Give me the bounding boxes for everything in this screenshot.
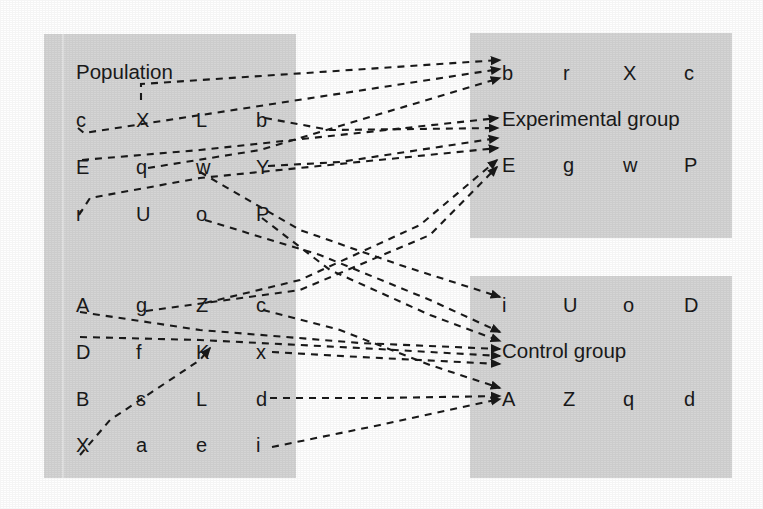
population-cell: x bbox=[256, 342, 266, 362]
population-cell: s bbox=[136, 389, 146, 409]
population-cell: r bbox=[76, 204, 83, 224]
population-cell: P bbox=[256, 204, 269, 224]
population-cell: X bbox=[136, 110, 149, 130]
control-cell: U bbox=[563, 295, 577, 315]
control-group-title: Control group bbox=[502, 341, 626, 361]
edge-x-to-control bbox=[272, 352, 500, 364]
experimental-cell: X bbox=[623, 63, 636, 83]
population-cell: d bbox=[256, 389, 267, 409]
control-cell: o bbox=[623, 295, 634, 315]
diagram-canvas: Population c X L b E q w Y r U o P A g Z… bbox=[0, 0, 763, 509]
experimental-cell: b bbox=[502, 63, 513, 83]
experimental-cell: P bbox=[684, 155, 697, 175]
population-cell: i bbox=[256, 435, 260, 455]
population-cell: a bbox=[136, 435, 147, 455]
edge-b-to-experimental bbox=[265, 118, 498, 130]
population-title: Population bbox=[76, 62, 173, 82]
edge-d-to-A bbox=[270, 396, 500, 398]
population-cell: Y bbox=[256, 157, 269, 177]
edge-Y-to-experimental bbox=[268, 138, 498, 166]
population-cell: L bbox=[196, 389, 207, 409]
control-cell: A bbox=[502, 389, 515, 409]
experimental-group-title: Experimental group bbox=[502, 109, 680, 129]
edge-i-to-A bbox=[272, 399, 500, 447]
edge-P-to-control bbox=[262, 218, 500, 341]
experimental-cell: r bbox=[563, 63, 570, 83]
population-cell: o bbox=[196, 204, 207, 224]
population-cell: E bbox=[76, 157, 89, 177]
experimental-cell: c bbox=[684, 63, 694, 83]
population-cell: b bbox=[256, 110, 267, 130]
population-cell: w bbox=[196, 157, 210, 177]
population-cell: c bbox=[76, 110, 86, 130]
experimental-cell: E bbox=[502, 155, 515, 175]
population-cell: g bbox=[136, 295, 147, 315]
population-cell: A bbox=[76, 295, 89, 315]
population-cell: L bbox=[196, 110, 207, 130]
control-cell: d bbox=[684, 389, 695, 409]
population-cell: c bbox=[256, 295, 266, 315]
population-cell: U bbox=[136, 204, 150, 224]
control-cell: i bbox=[502, 295, 506, 315]
population-panel bbox=[44, 34, 296, 478]
experimental-cell: w bbox=[623, 155, 637, 175]
edge-c-to-A bbox=[263, 310, 500, 388]
population-cell: q bbox=[136, 157, 147, 177]
experimental-cell: g bbox=[563, 155, 574, 175]
population-cell: X bbox=[76, 435, 89, 455]
population-cell: K bbox=[196, 342, 209, 362]
control-cell: Z bbox=[563, 389, 575, 409]
control-cell: D bbox=[684, 295, 698, 315]
population-cell: B bbox=[76, 389, 89, 409]
population-cell: Z bbox=[196, 295, 208, 315]
population-cell: D bbox=[76, 342, 90, 362]
control-cell: q bbox=[623, 389, 634, 409]
population-cell: f bbox=[136, 342, 142, 362]
population-cell: e bbox=[196, 435, 207, 455]
